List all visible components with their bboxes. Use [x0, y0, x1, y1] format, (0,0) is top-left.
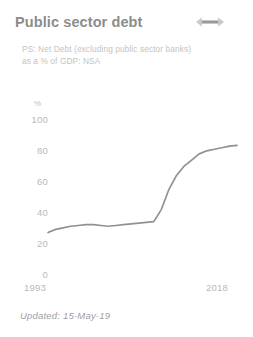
- updated-timestamp: Updated: 15-May-19: [20, 310, 110, 321]
- public-sector-debt-chart-card: Public sector debt PS: Net Debt (excludi…: [0, 0, 253, 337]
- chart-plot-area: [0, 96, 253, 296]
- card-header: Public sector debt: [15, 10, 239, 34]
- data-series-line: [48, 145, 237, 232]
- chart-subtitle-line1: PS: Net Debt (excluding public sector ba…: [22, 44, 238, 56]
- chart-subtitle-line2: as a % of GDP: NSA: [22, 56, 238, 68]
- page-title: Public sector debt: [15, 14, 143, 30]
- horizontal-double-arrow-icon[interactable]: [193, 12, 227, 32]
- chart-subtitle: PS: Net Debt (excluding public sector ba…: [22, 44, 238, 67]
